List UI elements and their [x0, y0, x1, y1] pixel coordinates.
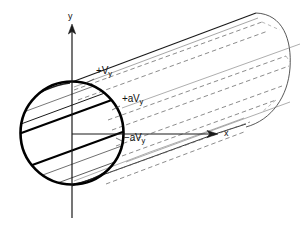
cap-dash-2 — [286, 56, 290, 62]
label-minus-a-vy-prefix: −aV — [124, 132, 141, 143]
label-plus-a-vy-prefix: +aV — [122, 93, 139, 104]
label-minus-a-vy: −aVy — [124, 133, 145, 145]
x-axis-label: x — [224, 128, 229, 138]
cylinder-body — [72, 13, 290, 186]
cylinder-bottom-inner-edge — [74, 118, 244, 181]
figure-cylinder-velocity-diagram: y x +Vy +aVy −aVy — [0, 0, 300, 229]
leader-plus-vy — [86, 79, 94, 83]
cylinder-solid-band-lines — [122, 44, 300, 162]
label-plus-vy-prefix: +V — [96, 65, 108, 76]
dashed-line-c2 — [122, 100, 276, 156]
cap-dash-1 — [262, 22, 280, 30]
dashed-line-b1 — [108, 56, 286, 120]
y-axis-label: y — [68, 11, 73, 21]
label-plus-vy-subscript: y — [108, 69, 112, 78]
leader-minus-a-vy — [116, 138, 122, 141]
label-plus-vy: +Vy — [96, 66, 112, 78]
label-plus-a-vy-subscript: y — [139, 97, 143, 106]
coordinate-axes — [68, 24, 218, 218]
cap-dash-3 — [262, 100, 276, 112]
label-plus-a-vy: +aVy — [122, 94, 143, 106]
inner-band-lower-a — [2, 137, 146, 190]
dashed-line-a1 — [74, 22, 262, 90]
label-minus-a-vy-subscript: y — [141, 136, 145, 145]
label-leaders — [86, 79, 122, 141]
diagram-canvas — [0, 0, 300, 229]
